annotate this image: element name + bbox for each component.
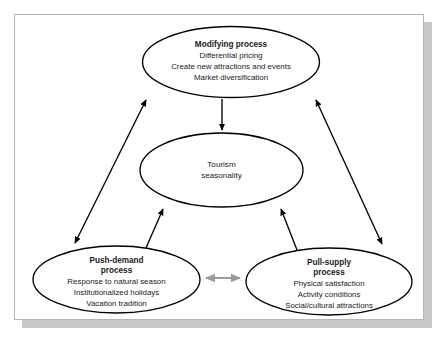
connector-push-center bbox=[146, 209, 163, 248]
modifying-process-line-3: Market diversification bbox=[194, 73, 268, 82]
figure-root: Modifying process Differential pricing C… bbox=[0, 0, 445, 348]
pull-supply-process-title-line-1: Pull-supply bbox=[307, 258, 352, 267]
modifying-process-line-1: Differential pricing bbox=[199, 51, 262, 60]
pull-supply-process-line-2: Activity conditions bbox=[298, 290, 361, 299]
tourism-seasonality-ellipse bbox=[140, 133, 303, 207]
node-tourism-seasonality[interactable]: Tourism seasonality bbox=[140, 133, 303, 207]
diagram-canvas: Modifying process Differential pricing C… bbox=[0, 0, 445, 348]
node-modifying-process[interactable]: Modifying process Differential pricing C… bbox=[143, 27, 320, 98]
tourism-seasonality-line-2: seasonality bbox=[201, 171, 242, 180]
push-demand-process-line-2: Institutionalized holidays bbox=[74, 288, 160, 297]
pull-supply-process-line-1: Physical satisfaction bbox=[293, 279, 364, 288]
pull-supply-process-line-3: Social/cultural attractions bbox=[285, 301, 373, 310]
push-demand-process-line-3: Vacation tradition bbox=[86, 299, 146, 308]
modifying-process-title: Modifying process bbox=[195, 40, 268, 49]
push-demand-process-title-line-1: Push-demand bbox=[89, 256, 143, 265]
node-push-demand-process[interactable]: Push-demand process Response to natural … bbox=[33, 246, 200, 313]
tourism-seasonality-line-1: Tourism bbox=[207, 160, 236, 169]
connector-pull-center bbox=[281, 209, 297, 250]
push-demand-process-title-line-2: process bbox=[101, 266, 133, 275]
modifying-process-line-2: Create new attractions and events bbox=[171, 62, 291, 71]
pull-supply-process-title-line-2: process bbox=[313, 268, 345, 277]
connector-modifying-push bbox=[75, 100, 146, 243]
push-demand-process-line-1: Response to natural season bbox=[67, 277, 165, 286]
node-pull-supply-process[interactable]: Pull-supply process Physical satisfactio… bbox=[246, 248, 412, 315]
connector-modifying-pull bbox=[316, 100, 382, 244]
